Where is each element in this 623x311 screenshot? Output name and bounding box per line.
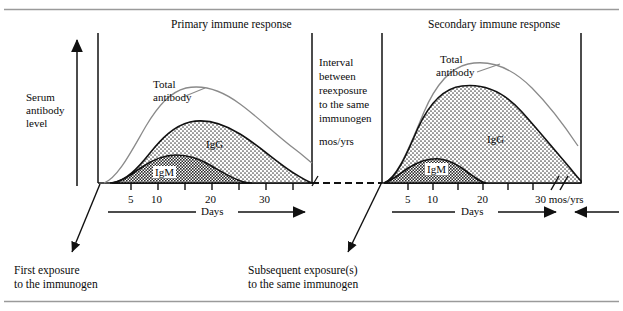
y-axis-label-line2: antibody bbox=[26, 104, 65, 116]
first-exposure-caption-line1: First exposure bbox=[14, 264, 79, 277]
secondary-tick-10: 10 bbox=[427, 193, 438, 205]
primary-total-antibody-label-line2: antibody bbox=[153, 91, 192, 103]
primary-x-axis-label: Days bbox=[201, 205, 224, 217]
primary-panel-title: Primary immune response bbox=[171, 18, 292, 31]
secondary-igg-label: IgG bbox=[487, 133, 504, 145]
secondary-total-antibody-label-line2: antibody bbox=[436, 66, 475, 78]
primary-tick-30: 30 bbox=[259, 193, 270, 205]
primary-total-antibody-label-line1: Total bbox=[153, 78, 175, 90]
primary-igm-label: IgM bbox=[153, 166, 176, 178]
secondary-x-axis-label: Days bbox=[461, 205, 484, 217]
interval-text-line1: Interval bbox=[319, 56, 353, 68]
primary-x-ticks bbox=[131, 183, 293, 190]
subsequent-exposure-caption-line1: Subsequent exposure(s) bbox=[248, 264, 358, 277]
figure-container: Primary immune response Secondary immune… bbox=[0, 0, 623, 311]
subsequent-exposure-caption-line2: to the same immunogen bbox=[248, 278, 358, 291]
subsequent-exposure-leader bbox=[348, 184, 381, 252]
y-axis-label-line1: Serum bbox=[26, 91, 55, 103]
interval-text-line3: reexposure bbox=[319, 84, 367, 96]
secondary-tick-30-mosyrs: 30 mos/yrs bbox=[535, 193, 584, 205]
y-axis-label-line3: level bbox=[26, 117, 47, 129]
primary-tick-5: 5 bbox=[128, 193, 134, 205]
secondary-panel-title: Secondary immune response bbox=[428, 18, 560, 31]
secondary-tick-20: 20 bbox=[477, 193, 488, 205]
interval-unit-label: mos/yrs bbox=[319, 135, 354, 147]
secondary-igm-label: IgM bbox=[425, 163, 448, 175]
first-exposure-caption-line2: to the immunogen bbox=[14, 278, 98, 291]
primary-igg-label: IgG bbox=[206, 138, 223, 150]
interval-text-line4: to the same bbox=[319, 98, 369, 110]
interval-text-line2: between bbox=[319, 70, 356, 82]
secondary-total-antibody-label-line1: Total bbox=[440, 53, 462, 65]
secondary-x-ticks bbox=[408, 183, 533, 190]
interval-text-line5: immunogen bbox=[319, 112, 372, 124]
total-antibody-leader-secondary bbox=[477, 64, 500, 72]
first-exposure-leader bbox=[72, 184, 100, 252]
interval-left-tick-arrow bbox=[312, 176, 318, 186]
primary-tick-10: 10 bbox=[151, 193, 162, 205]
primary-tick-20: 20 bbox=[205, 193, 216, 205]
secondary-tick-5: 5 bbox=[405, 193, 411, 205]
